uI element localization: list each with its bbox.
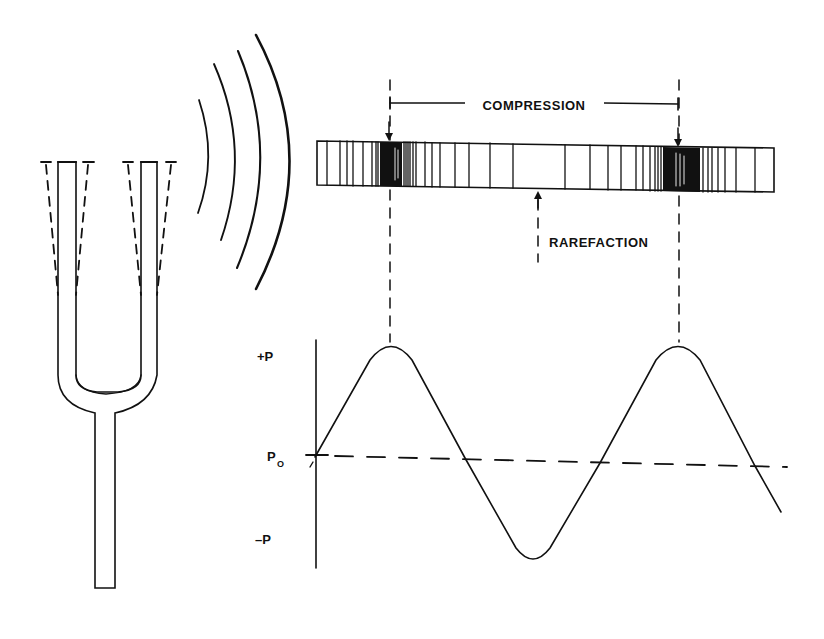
fork-u-curve xyxy=(76,375,141,394)
right-prong-outer-dash xyxy=(157,165,171,295)
arrow-down-icon xyxy=(385,133,393,141)
rarefaction-arrow xyxy=(534,191,542,208)
pressure-graph xyxy=(306,340,787,568)
p0-subscript: O xyxy=(277,459,284,469)
arc-2 xyxy=(214,64,235,240)
guide-lines xyxy=(390,80,679,342)
p0-label: P xyxy=(267,449,276,464)
left-prong-outer-dash xyxy=(46,165,58,295)
rarefaction-label: RAREFACTION xyxy=(549,235,648,250)
left-prong-inner-dash xyxy=(76,165,88,295)
air-column-band xyxy=(317,141,774,192)
ambient-pressure-line xyxy=(335,456,787,467)
sound-wave-diagram: COMPRESSION RAREFACTION +P P O –P xyxy=(0,0,824,639)
minus-p-label: –P xyxy=(255,532,271,547)
right-prong-inner-dash xyxy=(128,165,141,295)
sound-wave-arcs xyxy=(198,35,290,289)
arc-3 xyxy=(237,51,260,268)
compression-label: COMPRESSION xyxy=(482,98,585,113)
vibration-envelopes xyxy=(46,165,171,295)
compression-zone-left xyxy=(380,142,402,186)
pressure-wave xyxy=(315,347,781,560)
arc-1 xyxy=(198,100,208,213)
tuning-fork xyxy=(41,162,176,588)
compression-zone-right xyxy=(663,147,700,192)
plus-p-label: +P xyxy=(257,349,274,364)
fork-outline xyxy=(58,162,157,588)
